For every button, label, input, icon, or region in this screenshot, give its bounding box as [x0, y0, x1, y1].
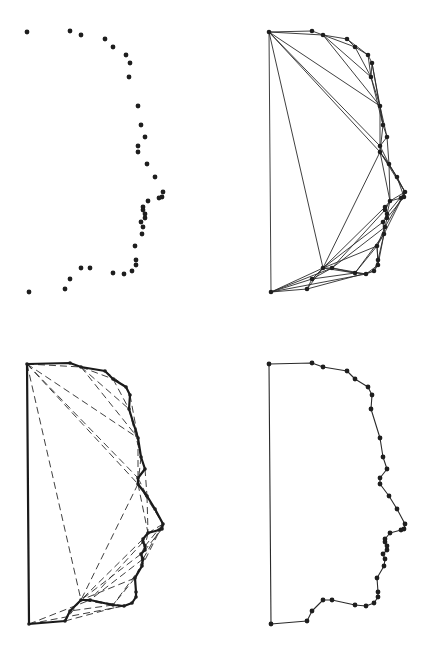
- data-point: [134, 590, 138, 594]
- data-point: [122, 604, 126, 608]
- data-point: [141, 540, 145, 544]
- candidate-edge: [81, 539, 143, 600]
- data-point: [143, 548, 147, 552]
- data-point: [395, 507, 400, 512]
- data-point: [136, 104, 141, 109]
- candidate-edge: [27, 364, 81, 600]
- data-point: [403, 190, 408, 195]
- data-point: [378, 476, 383, 481]
- data-point: [375, 576, 380, 581]
- data-point: [124, 385, 128, 389]
- data-point: [321, 266, 326, 271]
- data-point: [376, 590, 381, 595]
- data-point: [111, 377, 115, 381]
- triangulation-edge: [323, 246, 377, 268]
- data-point: [269, 622, 274, 627]
- data-point: [136, 476, 140, 480]
- data-point: [310, 361, 315, 366]
- data-point: [381, 552, 386, 557]
- data-point: [130, 269, 135, 274]
- data-point: [353, 271, 358, 276]
- data-point: [366, 53, 371, 58]
- data-point: [139, 220, 144, 225]
- data-point: [157, 196, 162, 201]
- data-point: [145, 494, 149, 498]
- data-point: [399, 196, 404, 201]
- data-point: [136, 482, 140, 486]
- data-point: [269, 290, 274, 295]
- data-point: [103, 369, 107, 373]
- contour-path: [27, 363, 163, 624]
- data-point: [27, 290, 32, 295]
- data-point: [157, 528, 161, 532]
- data-point: [88, 598, 92, 602]
- data-point: [63, 619, 67, 623]
- data-point: [79, 266, 84, 271]
- data-point: [111, 603, 115, 607]
- data-point: [399, 528, 404, 533]
- data-point: [330, 598, 335, 603]
- figure-canvas: [0, 0, 436, 647]
- candidate-edge: [81, 578, 135, 600]
- data-point: [385, 216, 390, 221]
- data-point: [79, 598, 83, 602]
- data-point: [403, 522, 408, 527]
- data-point: [387, 494, 392, 499]
- data-point: [139, 455, 143, 459]
- triangulation-edge: [271, 274, 366, 292]
- data-point: [111, 45, 116, 50]
- triangulation-edge: [269, 32, 380, 146]
- data-point: [134, 258, 139, 263]
- data-point: [103, 37, 108, 42]
- data-point: [383, 208, 388, 213]
- data-point: [376, 263, 381, 268]
- data-point: [364, 604, 369, 609]
- data-point: [141, 225, 146, 230]
- data-point: [370, 61, 375, 66]
- data-point: [330, 266, 335, 271]
- data-point: [378, 482, 383, 487]
- data-point: [388, 531, 393, 536]
- data-point: [383, 557, 388, 562]
- data-point: [88, 266, 93, 271]
- data-point: [381, 455, 386, 460]
- data-point: [267, 362, 272, 367]
- data-point: [136, 436, 140, 440]
- data-point: [387, 162, 392, 167]
- data-point: [68, 609, 72, 613]
- data-point: [79, 365, 83, 369]
- triangulation-edge: [372, 63, 383, 125]
- data-point: [305, 619, 310, 624]
- data-point: [146, 199, 151, 204]
- data-point: [369, 75, 374, 80]
- data-point: [366, 385, 371, 390]
- panel-contour-with-candidate-edges: [25, 361, 165, 626]
- data-point: [133, 244, 138, 249]
- data-point: [353, 377, 358, 382]
- data-point: [133, 576, 137, 580]
- data-point: [395, 175, 400, 180]
- triangulation-edge: [269, 32, 323, 268]
- panel-point-set: [25, 29, 166, 295]
- data-point: [321, 598, 326, 603]
- data-point: [128, 61, 133, 66]
- data-point: [353, 603, 358, 608]
- data-point: [372, 269, 377, 274]
- data-point: [139, 552, 143, 556]
- data-point: [141, 557, 145, 561]
- data-point: [310, 277, 315, 282]
- data-point: [382, 232, 387, 237]
- data-point: [143, 135, 148, 140]
- data-point: [136, 144, 141, 149]
- data-point: [136, 150, 141, 155]
- data-point: [385, 548, 390, 553]
- triangulation-edge: [323, 207, 385, 268]
- data-point: [267, 30, 272, 35]
- data-point: [378, 150, 383, 155]
- triangulation-edge: [269, 31, 312, 32]
- data-point: [153, 175, 158, 180]
- data-point: [143, 216, 148, 221]
- data-point: [128, 393, 132, 397]
- data-point: [385, 467, 390, 472]
- triangulation-edge: [332, 268, 366, 274]
